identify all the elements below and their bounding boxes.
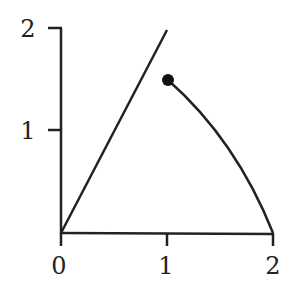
curve-start-marker [162, 74, 174, 86]
x-label-2: 2 [265, 252, 280, 280]
chart: 2 1 0 1 2 [0, 0, 298, 290]
series-curve [168, 80, 273, 233]
y-label-2: 2 [20, 15, 35, 43]
series-line [61, 30, 167, 233]
y-label-1: 1 [20, 117, 35, 145]
x-label-1: 1 [158, 252, 173, 280]
x-label-0: 0 [51, 252, 66, 280]
